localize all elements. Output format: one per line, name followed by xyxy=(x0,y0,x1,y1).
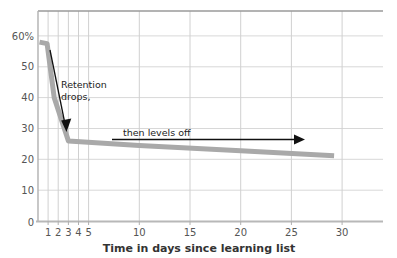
y-tick-label-0: 0 xyxy=(28,217,34,228)
x-tick-label-30: 30 xyxy=(336,227,349,238)
x-tick-label-10: 10 xyxy=(133,227,146,238)
x-tick-label-20: 20 xyxy=(234,227,247,238)
x-tick-label-3: 3 xyxy=(65,227,71,238)
y-tick-label-50: 50 xyxy=(21,61,34,72)
retention-drops-label-line2: drops, xyxy=(61,91,91,102)
retention-curve-chart: 0 10 20 30 40 50 60% 1 2 3 4 5 10 15 20 … xyxy=(0,0,397,258)
y-axis-tick-labels: 0 10 20 30 40 50 60% xyxy=(12,31,34,228)
retention-drops-label-line1: Retention xyxy=(61,79,107,90)
x-tick-label-15: 15 xyxy=(184,227,197,238)
x-tick-label-1: 1 xyxy=(45,227,51,238)
y-tick-label-10: 10 xyxy=(21,185,34,196)
x-tick-label-5: 5 xyxy=(85,227,91,238)
x-axis-title: Time in days since learning list xyxy=(103,242,295,255)
x-axis-tick-labels: 1 2 3 4 5 10 15 20 25 30 xyxy=(45,227,349,238)
x-tick-label-4: 4 xyxy=(75,227,81,238)
y-tick-label-60: 60% xyxy=(12,31,34,42)
chart-canvas: 0 10 20 30 40 50 60% 1 2 3 4 5 10 15 20 … xyxy=(0,0,397,258)
x-tick-label-25: 25 xyxy=(285,227,298,238)
y-tick-label-20: 20 xyxy=(21,154,34,165)
y-tick-label-40: 40 xyxy=(21,92,34,103)
x-tick-label-2: 2 xyxy=(55,227,61,238)
then-levels-off-label: then levels off xyxy=(123,127,191,138)
y-tick-label-30: 30 xyxy=(21,123,34,134)
